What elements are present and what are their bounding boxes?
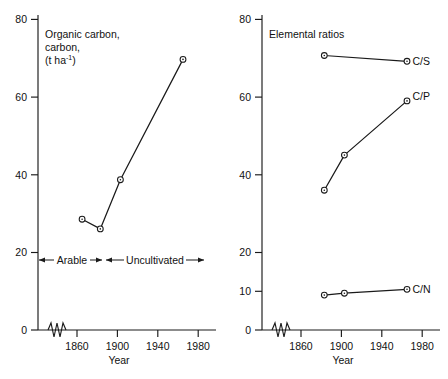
cs-series-line (324, 56, 407, 62)
x-ticklabel-1860: 1860 (289, 340, 313, 352)
uncultivated-arrowhead-right (198, 257, 204, 262)
y-axis-unit-base: (t ha (45, 54, 66, 66)
y-ticklabel-80: 80 (15, 13, 27, 25)
series-cs: C/S (321, 53, 430, 68)
y-ticklabel-0: 0 (245, 324, 251, 336)
x-tick-group (77, 330, 198, 337)
cp-series-line (324, 101, 407, 190)
y-axis-title-line1: Organic carbon, (45, 28, 120, 40)
data-point-1883-center (100, 228, 102, 230)
y-ticklabel-group: 80 60 40 20 0 (15, 13, 27, 336)
cn-series-line (324, 289, 407, 295)
arable-label: Arable (57, 254, 88, 266)
cp-series-label: C/P (413, 90, 431, 102)
y-ticklabel-0: 0 (21, 324, 27, 336)
x-ticklabel-group: 1860 1900 1940 1980 (289, 340, 434, 352)
arable-arrowhead-right (96, 257, 102, 262)
cn-point-1883-center (324, 294, 326, 296)
data-point-1903-center (120, 179, 122, 181)
uncultivated-label: Uncultivated (126, 254, 184, 266)
uncultivated-arrowhead-left (106, 257, 112, 262)
cp-point-1965-center (406, 100, 408, 102)
y-axis-title-line2: carbon, (45, 41, 80, 53)
cn-series-label: C/N (413, 283, 431, 295)
cs-point-1965-center (406, 61, 408, 63)
y-ticklabel-20: 20 (239, 246, 251, 258)
y-ticklabel-group: 80 60 40 20 10 0 (239, 13, 251, 336)
x-axis-title: Year (332, 354, 354, 366)
x-ticklabel-1860: 1860 (65, 340, 89, 352)
series-cn: C/N (321, 283, 430, 298)
series-cp: C/P (321, 90, 430, 194)
annotation-uncultivated: Uncultivated (106, 253, 204, 267)
cn-point-1903-center (344, 292, 346, 294)
y-axis-title-group: Organic carbon, carbon, (t ha-1) (45, 28, 120, 66)
y-axis-title-line3: (t ha-1) (45, 54, 76, 66)
annotation-arable: Arable (39, 253, 102, 267)
cs-point-1883-center (324, 55, 326, 57)
data-point-1965-center (182, 59, 184, 61)
x-ticklabel-1980: 1980 (187, 340, 211, 352)
cs-series-label: C/S (413, 55, 431, 67)
cp-point-1903-center (344, 154, 346, 156)
chart-panel-elemental-ratios: 80 60 40 20 10 0 1860 1900 1940 1980 Yea… (224, 0, 448, 379)
x-ticklabel-1900: 1900 (106, 340, 130, 352)
y-ticklabel-40: 40 (15, 169, 27, 181)
arable-arrowhead-left (39, 257, 45, 262)
organic-carbon-marker-group (79, 57, 186, 232)
x-ticklabel-1940: 1940 (146, 340, 170, 352)
x-ticklabel-1980: 1980 (411, 340, 435, 352)
x-ticklabel-1940: 1940 (370, 340, 394, 352)
y-ticklabel-40: 40 (239, 169, 251, 181)
y-ticklabel-20: 20 (15, 246, 27, 258)
cn-point-1965-center (406, 289, 408, 291)
y-tick-group (31, 19, 38, 330)
elemental-ratios-plot: 80 60 40 20 10 0 1860 1900 1940 1980 Yea… (224, 0, 448, 379)
y-ticklabel-10: 10 (239, 285, 251, 297)
y-ticklabel-60: 60 (239, 91, 251, 103)
x-ticklabel-group: 1860 1900 1940 1980 (65, 340, 210, 352)
y-ticklabel-80: 80 (239, 13, 251, 25)
data-point-1865-center (81, 218, 83, 220)
cp-point-1883-center (324, 189, 326, 191)
y-ticklabel-60: 60 (15, 91, 27, 103)
organic-carbon-plot: 80 60 40 20 0 1860 1900 1940 1980 Year O (0, 0, 224, 379)
panel-title: Elemental ratios (269, 28, 344, 40)
figure-root: 80 60 40 20 0 1860 1900 1940 1980 Year O (0, 0, 448, 379)
chart-panel-organic-carbon: 80 60 40 20 0 1860 1900 1940 1980 Year O (0, 0, 224, 379)
x-axis-title: Year (108, 354, 130, 366)
organic-carbon-series-line (82, 59, 183, 229)
y-axis-unit-close: ) (72, 54, 76, 66)
x-ticklabel-1900: 1900 (330, 340, 354, 352)
x-tick-group (301, 330, 422, 337)
y-tick-group (255, 19, 262, 330)
